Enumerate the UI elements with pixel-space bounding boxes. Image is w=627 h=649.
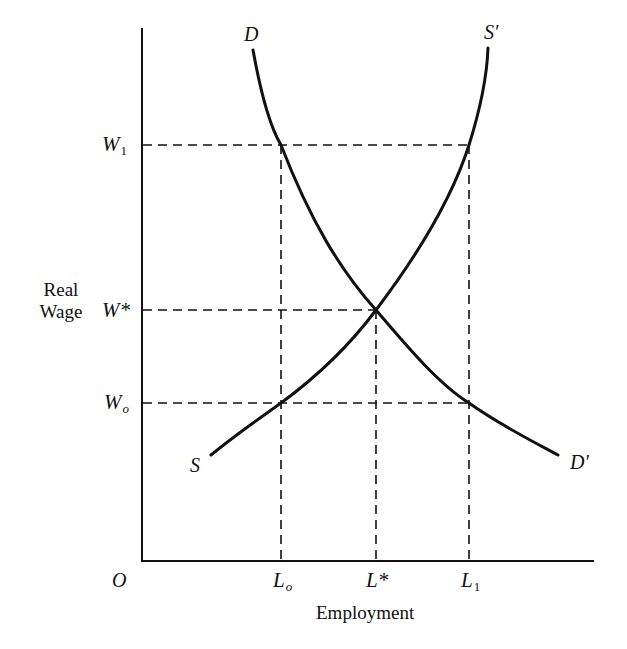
y-axis-title: Real Wage (36, 280, 86, 321)
tick-w1: W1 (102, 134, 127, 157)
tick-lstar: L* (366, 570, 388, 591)
tick-wstar: W* (102, 300, 130, 321)
x-axis-title: Employment (316, 603, 414, 622)
tick-l1: L1 (461, 570, 480, 593)
demand-curve (253, 50, 558, 455)
origin-label: O (112, 570, 126, 590)
supply-curve (211, 48, 488, 455)
label-s-prime: S′ (484, 22, 498, 42)
label-d: D (244, 24, 258, 44)
y-axis-title-line2: Wage (36, 302, 86, 321)
label-d-prime: D′ (570, 452, 589, 472)
y-axis-title-line1: Real (36, 280, 86, 299)
tick-lo: Lo (273, 570, 292, 593)
labor-market-diagram (0, 0, 627, 649)
label-s: S (190, 455, 200, 475)
tick-wo: Wo (104, 392, 129, 415)
